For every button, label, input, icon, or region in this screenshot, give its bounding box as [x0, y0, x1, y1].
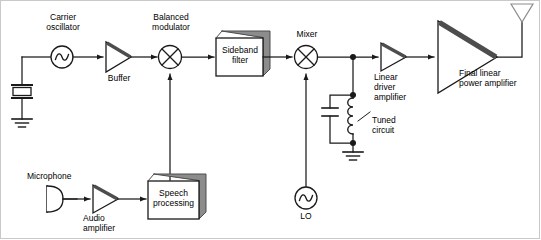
label-microphone: Microphone: [27, 171, 97, 181]
label-speech-processing: Speech processing: [148, 188, 199, 208]
linear-driver-amplifier-symbol: [381, 43, 406, 71]
ground-symbol-tuned-circuit: [343, 152, 363, 160]
label-carrier-oscillator: Carrier oscillator: [32, 12, 94, 32]
wire-cap-bottom: [330, 116, 353, 143]
wire-final-to-antenna: [497, 22, 522, 57]
diagram-canvas: Carrier oscillator Buffer Balanced modul…: [0, 0, 541, 240]
audio-amplifier-symbol: [93, 185, 118, 213]
circuit-schematic: [0, 0, 541, 240]
antenna-symbol: [511, 4, 533, 22]
label-mixer: Mixer: [286, 29, 328, 39]
carrier-oscillator-symbol: [51, 46, 73, 68]
label-tuned-circuit: Tuned circuit: [372, 115, 414, 135]
label-buffer: Buffer: [97, 73, 141, 83]
label-audio-amplifier: Audio amplifier: [83, 213, 137, 233]
inductor-coil: [348, 98, 353, 134]
mixer-symbol: [295, 46, 318, 69]
label-linear-driver-amplifier: Linear driver amplifier: [374, 72, 420, 102]
lo-oscillator-symbol: [295, 187, 317, 209]
tuned-circuit-leader: [358, 112, 370, 121]
label-lo: LO: [292, 211, 320, 221]
label-sideband-filter: Sideband filter: [217, 45, 263, 65]
tuned-circuit-network: [322, 57, 370, 152]
crystal-symbol: [12, 57, 32, 119]
label-final-linear-power-amplifier: Final linear power amplifier: [459, 68, 537, 88]
buffer-amplifier-symbol: [106, 42, 131, 72]
ground-symbol-crystal: [12, 119, 32, 127]
junction-dot-tuned-top: [350, 92, 356, 98]
label-balanced-modulator: Balanced modulator: [140, 12, 202, 32]
balanced-modulator-symbol: [159, 46, 182, 69]
